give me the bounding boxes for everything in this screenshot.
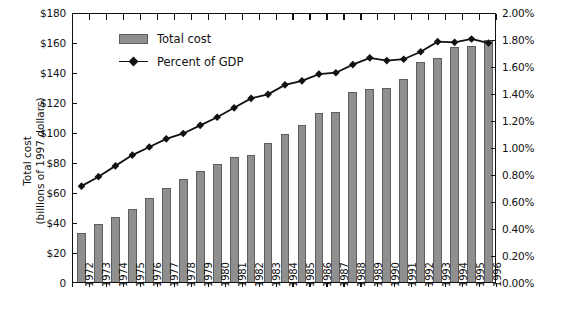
y-axis-left-tick-mark: [72, 253, 77, 254]
y-axis-right-tick-mark: [491, 94, 496, 95]
y-axis-left-tick-label: $80: [47, 157, 66, 169]
plot-area: Total cost Percent of GDP: [72, 13, 496, 283]
y-axis-right-tick-label: 0.60%: [502, 196, 534, 208]
y-axis-right-tick-label: 0.80%: [502, 169, 534, 181]
x-axis-tick-mark-top: [496, 14, 497, 20]
y-axis-left-title-line2: (billions of 1997 dollars): [34, 71, 47, 251]
data-point-marker: [78, 182, 86, 190]
data-point-marker: [400, 55, 408, 63]
y-axis-right-tick-mark: [491, 202, 496, 203]
x-axis-tick-mark-top: [326, 14, 327, 20]
chart-container: 0$20$40$60$80$100$120$140$160$180 Total …: [0, 0, 573, 313]
data-point-marker: [179, 130, 187, 138]
x-axis-tick-mark-bottom: [259, 283, 260, 287]
x-axis-tick-mark-bottom: [174, 283, 175, 287]
x-axis-tick-mark-top: [309, 14, 310, 20]
y-axis-right-tick-label: 1.60%: [502, 61, 534, 73]
data-point-marker: [451, 39, 459, 47]
x-axis-tick-mark-top: [343, 14, 344, 20]
data-point-marker: [315, 70, 323, 78]
x-axis-tick-mark-bottom: [496, 283, 497, 287]
x-axis-tick-mark-bottom: [89, 283, 90, 287]
y-axis-left-title: Total cost (billions of 1997 dollars): [21, 71, 47, 251]
data-point-marker: [468, 35, 476, 43]
y-axis-left-tick-mark: [72, 163, 77, 164]
y-axis-right-tick-mark: [491, 175, 496, 176]
x-axis-tick-mark-top: [191, 14, 192, 20]
y-axis-left-tick-label: $160: [40, 37, 66, 49]
x-axis-tick-mark-bottom: [445, 283, 446, 287]
x-axis-tick-mark-top: [259, 14, 260, 20]
x-axis-labels: 1972197319741975197619771978197919801981…: [72, 286, 496, 313]
y-axis-left-title-line1: Total cost: [21, 71, 34, 251]
x-axis-tick-mark-bottom: [462, 283, 463, 287]
y-axis-right-tick-label: 1.80%: [502, 34, 534, 46]
x-axis-tick-mark-bottom: [292, 283, 293, 287]
y-axis-left-tick-mark: [72, 103, 77, 104]
data-point-marker: [230, 104, 238, 112]
y-axis-right-tick-label: 1.20%: [502, 115, 534, 127]
x-axis-tick-mark-top: [123, 14, 124, 20]
y-axis-right-tick-label: 0.00%: [502, 277, 534, 289]
x-axis-tick-mark-bottom: [309, 283, 310, 287]
y-axis-left-tick-mark: [72, 193, 77, 194]
y-axis-left-tick-label: 0: [60, 277, 66, 289]
data-point-marker: [349, 61, 357, 69]
y-axis-right-labels: 0.00%0.20%0.40%0.60%0.80%1.00%1.20%1.40%…: [502, 13, 566, 283]
x-axis-tick-mark-top: [292, 14, 293, 20]
x-axis-tick-mark-top: [360, 14, 361, 20]
x-axis-tick-mark-bottom: [225, 283, 226, 287]
x-axis-tick-mark-bottom: [157, 283, 158, 287]
x-axis-tick-mark-bottom: [394, 283, 395, 287]
x-axis-tick-mark-top: [157, 14, 158, 20]
y-axis-left-tick-label: $60: [47, 187, 66, 199]
line-diamond-swatch-icon: [119, 57, 148, 67]
data-point-marker: [434, 38, 442, 46]
legend-label-percent-of-gdp: Percent of GDP: [157, 55, 243, 69]
y-axis-right-tick-mark: [491, 121, 496, 122]
x-axis-tick-mark-bottom: [411, 283, 412, 287]
x-axis-tick-mark-bottom: [191, 283, 192, 287]
x-axis-tick-mark-bottom: [360, 283, 361, 287]
x-axis-tick-mark-top: [242, 14, 243, 20]
legend-item-total-cost: Total cost: [119, 29, 243, 48]
x-axis-tick-mark-bottom: [72, 283, 73, 287]
y-axis-right-tick-mark: [491, 67, 496, 68]
y-axis-right-tick-label: 2.00%: [502, 7, 534, 19]
x-axis-tick-mark-bottom: [242, 283, 243, 287]
x-axis-tick-mark-top: [72, 14, 73, 20]
y-axis-right-tick-label: 0.40%: [502, 223, 534, 235]
y-axis-right-tick-mark: [491, 148, 496, 149]
x-axis-tick-mark-bottom: [123, 283, 124, 287]
x-axis-tick-mark-bottom: [428, 283, 429, 287]
data-point-marker: [366, 54, 374, 62]
x-axis-tick-mark-bottom: [479, 283, 480, 287]
x-axis-tick-mark-top: [462, 14, 463, 20]
y-axis-right-tick-label: 1.00%: [502, 142, 534, 154]
y-axis-left-tick-label: $20: [47, 247, 66, 259]
data-point-marker: [264, 91, 272, 99]
x-axis-tick-mark-top: [445, 14, 446, 20]
y-axis-left-tick-mark: [72, 43, 77, 44]
x-axis-tick-mark-top: [394, 14, 395, 20]
y-axis-left-tick-mark: [72, 133, 77, 134]
data-point-marker: [332, 69, 340, 77]
x-axis-tick-mark-bottom: [276, 283, 277, 287]
y-axis-left-tick-label: $180: [40, 7, 66, 19]
data-point-marker: [417, 48, 425, 56]
x-axis-tick-mark-top: [479, 14, 480, 20]
y-axis-left-tick-mark: [72, 73, 77, 74]
data-point-marker: [213, 113, 221, 121]
y-axis-right-tick-mark: [491, 256, 496, 257]
x-axis-tick-mark-top: [140, 14, 141, 20]
x-axis-tick-mark-bottom: [377, 283, 378, 287]
data-point-marker: [162, 135, 170, 143]
y-axis-right-tick-label: 1.40%: [502, 88, 534, 100]
legend-item-percent-of-gdp: Percent of GDP: [119, 52, 243, 71]
x-axis-tick-mark-top: [106, 14, 107, 20]
x-axis-tick-mark-bottom: [326, 283, 327, 287]
x-axis-tick-mark-top: [428, 14, 429, 20]
y-axis-left-tick-label: $40: [47, 217, 66, 229]
data-point-marker: [383, 57, 391, 65]
y-axis-right-tick-label: 0.20%: [502, 250, 534, 262]
